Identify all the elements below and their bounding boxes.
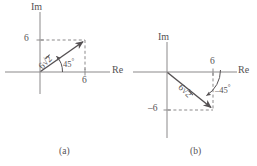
panel-b-real-tick-label: 6 — [210, 57, 215, 67]
panel-b-caption: (b) — [190, 147, 201, 157]
diagram-vector-graphics — [0, 0, 257, 166]
panel-b-imaginary-axis-label: Im — [158, 32, 169, 42]
panel-b-imaginary-tick-label: –6 — [148, 104, 158, 114]
panel-a-imaginary-tick-label: 6 — [24, 34, 29, 44]
panel-b-angle-label: –45° — [215, 84, 231, 94]
panel-a-imaginary-axis-label: Im — [31, 2, 42, 12]
panel-a-angle-degree-symbol: ° — [72, 57, 75, 65]
panel-b-angle-value: –45 — [215, 85, 228, 95]
panel-b-angle-degree-symbol: ° — [228, 83, 231, 91]
panel-a-real-axis-label: Re — [112, 65, 123, 75]
panel-b-real-axis-label: Re — [238, 65, 249, 75]
panel-a-graphics — [5, 12, 110, 94]
panel-a-angle-value: 45 — [63, 59, 72, 69]
panel-a-angle-label: 45° — [63, 58, 74, 68]
panel-a-real-tick-label: 6 — [82, 76, 87, 86]
figure-phasor-diagrams: Im Re 6 6 6√2 45° (a) Im Re 6 –6 6√2 –45… — [0, 0, 257, 166]
panel-a-caption: (a) — [59, 147, 70, 157]
